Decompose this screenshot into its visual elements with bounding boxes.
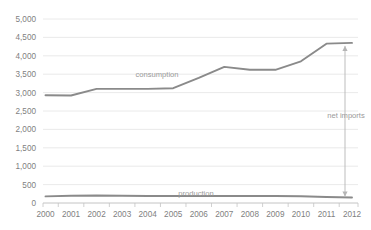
x-tick-label-2005: 2005 xyxy=(164,210,183,219)
y-tick-label-4,000: 4,000 xyxy=(16,52,37,61)
y-axis-tick-labels: 05001,0001,5002,0002,5003,0003,5004,0004… xyxy=(16,15,37,208)
gridlines xyxy=(43,19,358,185)
x-tick-label-2012: 2012 xyxy=(343,210,362,219)
y-tick-label-1,500: 1,500 xyxy=(16,144,37,153)
y-tick-label-4,500: 4,500 xyxy=(16,33,37,42)
series-label-consumption: consumption xyxy=(135,70,178,79)
y-tick-label-500: 500 xyxy=(22,181,36,190)
net-imports-arrow-head-up xyxy=(342,46,347,51)
y-tick-label-1,000: 1,000 xyxy=(16,162,37,171)
x-tick-label-2002: 2002 xyxy=(87,210,106,219)
x-tick-label-2006: 2006 xyxy=(190,210,209,219)
data-series-lines xyxy=(46,43,353,198)
net-imports-label: net imports xyxy=(327,111,365,120)
net-imports-arrow-head-down xyxy=(342,191,347,196)
x-tick-label-2007: 2007 xyxy=(215,210,234,219)
x-axis-tick-labels: 2000200120022003200420052006200720082009… xyxy=(36,210,361,219)
line-chart: 05001,0001,5002,0002,5003,0003,5004,0004… xyxy=(0,0,371,230)
x-tick-label-2003: 2003 xyxy=(113,210,132,219)
y-tick-label-0: 0 xyxy=(31,199,36,208)
net-imports-annotation: net imports xyxy=(327,46,365,197)
x-tick-label-2004: 2004 xyxy=(139,210,158,219)
chart-canvas: 05001,0001,5002,0002,5003,0003,5004,0004… xyxy=(0,0,371,230)
series-label-production: production xyxy=(178,189,213,198)
y-tick-label-3,500: 3,500 xyxy=(16,70,37,79)
y-tick-label-2,000: 2,000 xyxy=(16,125,37,134)
x-tick-label-2000: 2000 xyxy=(36,210,55,219)
y-tick-label-5,000: 5,000 xyxy=(16,15,37,24)
series-line-consumption xyxy=(46,43,353,96)
y-tick-label-3,000: 3,000 xyxy=(16,89,37,98)
x-axis-tick-marks xyxy=(43,203,358,207)
y-tick-label-2,500: 2,500 xyxy=(16,107,37,116)
x-tick-label-2011: 2011 xyxy=(318,210,336,219)
x-tick-label-2001: 2001 xyxy=(62,210,81,219)
x-tick-label-2010: 2010 xyxy=(292,210,311,219)
x-tick-label-2009: 2009 xyxy=(266,210,285,219)
x-tick-label-2008: 2008 xyxy=(241,210,260,219)
